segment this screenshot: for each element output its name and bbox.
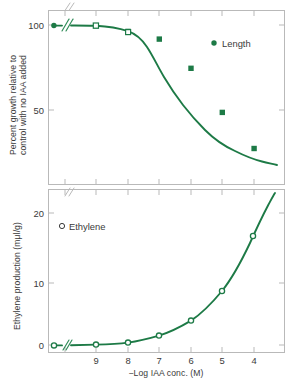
bottom-panel: 20 10 0 Ethylene production (mμl/g) xyxy=(12,188,285,353)
length-point-4 xyxy=(251,146,256,151)
length-open-markers xyxy=(93,23,130,35)
x-tick-label-8: 8 xyxy=(125,355,130,366)
length-point-7 xyxy=(157,36,162,41)
bottom-panel-y-ticks-right xyxy=(279,213,285,345)
length-point-6 xyxy=(188,66,193,71)
length-open-marker-8 xyxy=(126,30,131,35)
length-open-marker-9 xyxy=(93,23,98,28)
legend-marker-length-icon xyxy=(211,40,216,45)
bottom-panel-bottom-ticks xyxy=(65,347,254,353)
figure-container: 100 50 Percent growth relative to contro… xyxy=(0,0,291,381)
bottom-y-tick-label-0: 0 xyxy=(39,340,44,351)
ethylene-point-9 xyxy=(93,342,98,347)
bottom-panel-top-ticks xyxy=(65,190,254,196)
bottom-y-axis-label: Ethylene production (mμl/g) xyxy=(12,222,22,330)
legend-label-length: Length xyxy=(222,38,251,49)
top-panel: 100 50 Percent growth relative to contro… xyxy=(8,3,285,185)
x-tick-label-7: 7 xyxy=(156,355,161,366)
ethylene-point-8 xyxy=(125,340,130,345)
top-y-axis-label-line1: Percent growth relative to xyxy=(8,55,18,155)
bottom-y-tick-label-20: 20 xyxy=(34,208,44,219)
top-y-tick-label-100: 100 xyxy=(28,20,44,31)
top-y-axis-label-line2: control with no IAA added xyxy=(18,55,28,155)
top-panel-top-ticks xyxy=(65,11,254,17)
x-tick-label-9: 9 xyxy=(93,355,98,366)
legend-marker-ethylene-icon xyxy=(59,223,64,228)
top-panel-axis-break-frame xyxy=(65,3,74,11)
length-point-5 xyxy=(220,110,225,115)
bottom-y-tick-label-10: 10 xyxy=(34,278,44,289)
top-panel-bottom-ticks xyxy=(65,179,254,185)
x-tick-label-4: 4 xyxy=(251,355,256,366)
x-axis: 9 8 7 6 5 4 −Log IAA conc. (M) xyxy=(93,355,256,378)
x-tick-label-5: 5 xyxy=(219,355,224,366)
length-point-control xyxy=(51,23,56,28)
ethylene-point-4 xyxy=(250,233,255,238)
bottom-panel-frame xyxy=(49,190,285,353)
dose-response-chart: 100 50 Percent growth relative to contro… xyxy=(0,0,291,381)
legend-bottom[interactable]: Ethylene xyxy=(59,221,105,232)
x-axis-label: −Log IAA conc. (M) xyxy=(128,368,203,378)
top-y-tick-label-50: 50 xyxy=(34,105,44,116)
ethylene-point-control xyxy=(51,343,56,348)
bottom-panel-y-ticks-left xyxy=(49,213,55,345)
ethylene-point-5 xyxy=(219,288,224,293)
top-panel-y-ticks-right xyxy=(279,25,285,110)
legend-label-ethylene: Ethylene xyxy=(69,221,105,232)
ethylene-curve xyxy=(54,193,275,345)
legend-top[interactable]: Length xyxy=(211,38,250,49)
ethylene-data-points xyxy=(51,233,255,348)
ethylene-point-6 xyxy=(188,318,193,323)
top-panel-y-ticks-left xyxy=(49,25,55,110)
ethylene-point-7 xyxy=(156,333,161,338)
x-tick-label-6: 6 xyxy=(188,355,193,366)
